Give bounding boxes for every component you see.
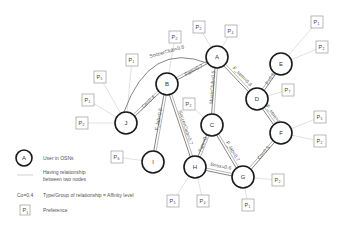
svg-text:7: 7 <box>289 90 291 94</box>
legend-edge-desc: Type/Group of relationship = Affinity le… <box>43 192 134 198</box>
svg-text:2: 2 <box>323 47 325 51</box>
svg-text:5: 5 <box>321 117 323 121</box>
legend-edge-sample: Co=0.4 <box>17 192 33 198</box>
user-node-b: B <box>156 73 178 95</box>
preference-box: P4 <box>225 25 237 37</box>
user-node-e: E <box>270 53 292 75</box>
svg-text:5: 5 <box>101 77 103 81</box>
relationship-edge <box>206 170 232 176</box>
svg-text:E: E <box>279 61 283 67</box>
svg-text:2: 2 <box>279 180 281 184</box>
svg-text:G: G <box>241 174 246 180</box>
preference-box: P2 <box>316 41 328 53</box>
preference-box: P6 <box>111 151 123 163</box>
preference-box: P2 <box>193 21 205 33</box>
svg-text:6: 6 <box>118 157 120 161</box>
svg-text:4: 4 <box>232 31 234 35</box>
relationship-label: Fam=0.7 <box>183 62 204 77</box>
preference-box: P5 <box>94 71 106 83</box>
svg-text:1: 1 <box>89 100 91 104</box>
svg-text:2: 2 <box>83 123 85 127</box>
svg-text:1: 1 <box>249 205 251 209</box>
svg-text:1: 1 <box>133 60 135 64</box>
user-node-g: G <box>232 166 254 188</box>
legend-node-desc: User in OSNs <box>43 155 74 161</box>
svg-text:2: 2 <box>190 104 192 108</box>
preference-box: P2 <box>169 31 181 43</box>
preference-box: P1 <box>126 54 138 66</box>
svg-text:B: B <box>165 81 169 87</box>
svg-text:1: 1 <box>318 22 320 26</box>
svg-text:C: C <box>210 122 215 128</box>
preference-box: P5 <box>314 111 326 123</box>
user-nodes: ABCDEFGHIJ <box>115 46 292 188</box>
relationship-label: Co=0.4 <box>140 94 156 110</box>
svg-text:D: D <box>255 96 260 102</box>
svg-text:A: A <box>22 155 26 161</box>
social-network-diagram: SoccerClub=0.8Fam=0.7Co=0.4F_lab=0.6Socc… <box>0 0 348 235</box>
legend-line-desc-2: between two nodes <box>43 176 87 182</box>
preference-box: P2 <box>183 98 195 110</box>
svg-text:H: H <box>193 164 197 170</box>
legend-pref-icon: P 1 <box>20 205 30 215</box>
svg-text:1: 1 <box>26 211 28 215</box>
preference-box: P2 <box>314 135 326 147</box>
legend-pref-desc: Preference <box>43 207 68 213</box>
svg-text:5: 5 <box>174 201 176 205</box>
relationship-label: SoccerClub=0.8 <box>149 43 185 59</box>
svg-text:2: 2 <box>176 37 178 41</box>
svg-text:F: F <box>279 130 283 136</box>
preference-box: P1 <box>242 199 254 211</box>
preference-box: P4 <box>197 195 209 207</box>
relationship-label: Co=0.5 <box>256 144 271 160</box>
user-node-h: H <box>184 156 206 178</box>
relationship-label: F_lab=0.7 <box>225 140 242 162</box>
preference-box: P2 <box>76 117 88 129</box>
preference-box: P1 <box>82 94 94 106</box>
preference-box: P1 <box>311 16 323 28</box>
user-node-i: I <box>142 151 164 173</box>
svg-text:2: 2 <box>200 27 202 31</box>
user-node-d: D <box>246 88 268 110</box>
svg-text:2: 2 <box>321 141 323 145</box>
user-node-a: A <box>206 46 228 68</box>
legend-node-icon: A <box>16 150 32 166</box>
preference-boxes: P2P4P2P1P5P1P2P6P2P7P1P2P5P2P2P1P5P4 <box>76 16 328 211</box>
svg-text:J: J <box>125 120 128 126</box>
preference-box: P7 <box>282 84 294 96</box>
user-node-c: C <box>201 114 223 136</box>
preference-box: P2 <box>272 174 284 186</box>
svg-text:4: 4 <box>204 201 206 205</box>
relationship-label: F_sem=0.8 <box>232 65 254 88</box>
user-node-j: J <box>115 112 137 134</box>
legend-line-desc-1: Having relationship <box>43 169 86 175</box>
user-node-f: F <box>270 122 292 144</box>
preference-links <box>82 22 322 205</box>
preference-box: P5 <box>167 195 179 207</box>
svg-text:A: A <box>215 54 219 60</box>
